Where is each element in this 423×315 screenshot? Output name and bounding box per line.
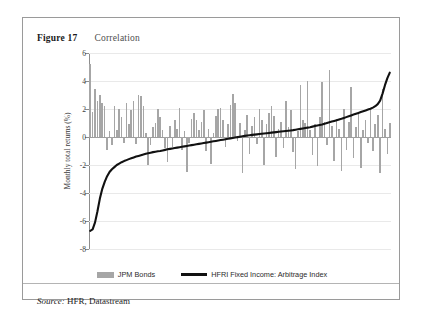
figure-container: Figure 17Correlation Monthly total retur… [22, 17, 400, 300]
y-axis-title: Monthly total returns (%) [63, 113, 72, 190]
legend-line-swatch-icon [181, 273, 207, 276]
chart-canvas: Monthly total returns (%) 6420-2-4-6-8 [89, 53, 391, 249]
source-divider [23, 283, 399, 284]
legend-label-hfri-index: HFRI Fixed Income: Arbitrage Index [211, 270, 327, 279]
figure-number: Figure 17 [37, 33, 77, 43]
y-axis-tick-label: -8 [80, 245, 86, 254]
y-axis-tick-label: 2 [82, 105, 86, 114]
y-axis-tick-label: -6 [80, 217, 86, 226]
chart-legend: JPM Bonds HFRI Fixed Income: Arbitrage I… [23, 270, 401, 279]
figure-title: Correlation [94, 33, 139, 43]
y-axis-tick-label: -2 [80, 161, 86, 170]
source-note: Source: HFR, Datastream [37, 290, 130, 308]
line-series-hfri-index [89, 53, 391, 249]
legend-bar-swatch-icon [97, 272, 114, 278]
y-axis-tick-label: 4 [82, 77, 86, 86]
y-axis-tick-label: 0 [82, 133, 86, 142]
legend-label-jpm-bonds: JPM Bonds [118, 270, 155, 279]
gridline [89, 249, 391, 250]
legend-item-hfri-index: HFRI Fixed Income: Arbitrage Index [181, 270, 327, 279]
y-axis-tick-label: 6 [82, 49, 86, 58]
y-axis-tick-label: -4 [80, 189, 86, 198]
source-text: HFR, Datastream [65, 296, 130, 306]
chart-plot-area: Monthly total returns (%) 6420-2-4-6-8 [67, 53, 391, 265]
legend-item-jpm-bonds: JPM Bonds [97, 270, 155, 279]
source-label: Source: [37, 296, 65, 306]
figure-header: Figure 17Correlation [37, 27, 140, 45]
